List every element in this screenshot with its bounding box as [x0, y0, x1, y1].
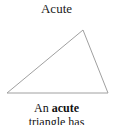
caption-line-2: triangle has: [0, 115, 113, 125]
figure-caption: An acute triangle has: [0, 101, 113, 125]
caption-line-1-prefix: An: [34, 101, 52, 115]
caption-line-1-emphasis: acute: [52, 101, 79, 115]
figure-title: Acute: [0, 1, 113, 16]
acute-triangle-diagram: [0, 20, 113, 98]
acute-triangle-figure: Acute An acute triangle has: [0, 0, 113, 125]
caption-line-1: An acute: [0, 101, 113, 115]
acute-triangle-shape: [7, 30, 108, 93]
